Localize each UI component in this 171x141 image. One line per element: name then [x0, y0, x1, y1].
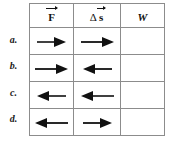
arrow-left-icon: [81, 62, 114, 76]
cell-force-b: [30, 55, 74, 82]
cell-force-a: [30, 28, 74, 55]
displacement-symbol-letter: s: [98, 12, 104, 23]
header-cell-displacement: Δs: [74, 4, 121, 28]
arrow-left-icon: [35, 89, 68, 103]
row-label-gutter: a. b. c. d.: [0, 26, 29, 132]
cell-displacement-a: [74, 28, 121, 55]
cell-force-d: [30, 109, 74, 136]
arrow-right-icon: [33, 62, 70, 76]
cell-work-b[interactable]: [121, 55, 165, 82]
arrow-left-icon: [33, 116, 70, 130]
arrow-right-icon: [35, 35, 68, 49]
cell-displacement-d: [74, 109, 121, 136]
row-label-b: b.: [0, 53, 29, 80]
displacement-vector-symbol: Δs: [90, 12, 104, 23]
cell-displacement-c: [74, 82, 121, 109]
header-cell-work: W: [121, 4, 165, 28]
table-row: [30, 82, 165, 109]
cell-displacement-b: [74, 55, 121, 82]
table-row: [30, 109, 165, 136]
cell-work-c[interactable]: [121, 82, 165, 109]
figure-root: a. b. c. d. F Δs W: [0, 0, 171, 141]
force-symbol-letter: F: [47, 12, 56, 23]
row-label-a: a.: [0, 26, 29, 53]
arrow-right-icon: [79, 35, 116, 49]
cell-work-d[interactable]: [121, 109, 165, 136]
header-row: F Δs W: [30, 4, 165, 28]
work-table: F Δs W: [29, 3, 165, 136]
arrow-right-icon: [81, 116, 114, 130]
table-header: F Δs W: [30, 4, 165, 28]
table-row: [30, 28, 165, 55]
table-row: [30, 55, 165, 82]
force-vector-symbol: F: [47, 12, 56, 23]
row-label-c: c.: [0, 79, 29, 106]
delta-symbol: Δ: [90, 11, 97, 23]
arrow-left-icon: [79, 89, 116, 103]
cell-force-c: [30, 82, 74, 109]
cell-work-a[interactable]: [121, 28, 165, 55]
header-cell-force: F: [30, 4, 74, 28]
row-label-d: d.: [0, 106, 29, 133]
work-symbol: W: [138, 11, 148, 23]
table-body: [30, 28, 165, 136]
